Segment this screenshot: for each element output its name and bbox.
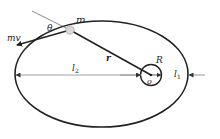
near-distance-subscript: 1 xyxy=(177,73,181,80)
momentum-label: mv xyxy=(7,33,21,43)
center-label: o xyxy=(147,77,152,86)
planet-radius-label: R xyxy=(155,55,163,65)
orbit-diagram: m mv θ r R o l2 l1 xyxy=(0,0,220,139)
angle-label: θ xyxy=(47,23,53,33)
near-distance-label: l1 xyxy=(174,69,181,80)
radius-vector-label: r xyxy=(106,53,112,63)
mass-ball xyxy=(66,26,74,34)
momentum-arrow xyxy=(17,30,70,45)
mass-label: m xyxy=(76,14,85,25)
far-distance-subscript: 2 xyxy=(75,67,79,74)
far-distance-label: l2 xyxy=(72,63,79,74)
